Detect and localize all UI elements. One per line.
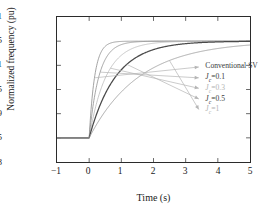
figure: Normalized frequency (pu) 1.001 1.0005 1… [0,0,261,213]
x-axis-title: Time (s) [56,192,251,203]
y-tick-label-0: 1.001 [0,12,2,21]
x-tick-label-5: 4 [205,166,231,176]
y-tick-label-5: 0.9985 [0,133,2,142]
series-label-jc-1: Jc=1 [205,105,219,116]
leader-arrowhead-2 [194,86,198,90]
leader-arrowhead-4 [195,105,199,110]
x-tick-label-3: 2 [140,166,166,176]
leader-line-3 [127,64,199,99]
y-axis-title: Normalized frequency (pu) [6,0,16,133]
x-tick-label-0: −1 [43,166,69,176]
leader-line-4 [169,61,198,110]
x-tick-label-1: 0 [75,166,101,176]
x-tick-label-2: 1 [107,166,133,176]
leader-arrowhead-0 [195,66,199,70]
y-tick-label-6: 0.998 [0,158,2,167]
y-tick-label-3: 0.9995 [0,85,2,94]
series-label-conventional-sv: Conventional SV [205,62,258,70]
y-tick-label-1: 1.0005 [0,36,2,45]
x-tick-label-4: 3 [172,166,198,176]
x-tick-label-6: 5 [237,166,261,176]
leader-line-2 [110,68,198,88]
y-tick-label-4: 0.999 [0,109,2,118]
y-tick-label-2: 1 [0,60,2,69]
leader-arrowhead-1 [195,76,199,80]
